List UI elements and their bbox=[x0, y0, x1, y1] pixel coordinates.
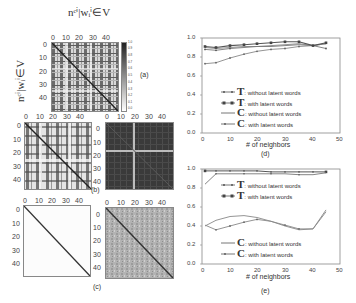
y-tick: 20 bbox=[93, 237, 101, 244]
heatmap-b-right bbox=[105, 122, 174, 190]
colorbar-tick: 0.2 bbox=[128, 94, 132, 97]
heatmap-c-right bbox=[105, 207, 174, 279]
y-tick: 0 bbox=[16, 206, 20, 213]
y-tick: 0 bbox=[96, 211, 100, 218]
colorbar-tick: 0.6 bbox=[128, 67, 132, 70]
chart-e-xlabel: # of neighbors bbox=[246, 273, 290, 280]
y-tick: 40 bbox=[39, 94, 47, 101]
x-tick: 30 bbox=[145, 199, 153, 206]
y-tick: 0.2 bbox=[187, 241, 195, 247]
colorbar-tick: 0.3 bbox=[128, 88, 132, 91]
legend-entry: C: with latent words bbox=[237, 247, 293, 259]
x-tick: 30 bbox=[145, 113, 153, 120]
y-tick: 0.0 bbox=[187, 129, 195, 135]
legend-entry: T: with latent words bbox=[237, 189, 292, 201]
x-tick: 40 bbox=[76, 113, 84, 120]
x-tick: 0 bbox=[23, 197, 27, 204]
y-tick: 30 bbox=[93, 165, 101, 172]
panel-a-ylabel: nᶜⁱ|wᵢⁱ∈V bbox=[14, 60, 27, 102]
panel-c-label: (c) bbox=[93, 283, 101, 290]
heatmap-c-left bbox=[23, 205, 91, 277]
y-tick: 10 bbox=[93, 224, 101, 231]
x-tick: 40 bbox=[309, 136, 316, 142]
panel-e-label: (e) bbox=[261, 287, 270, 294]
heatmap-b-left bbox=[24, 122, 92, 190]
y-tick: 40 bbox=[93, 264, 101, 271]
x-tick: 0 bbox=[105, 199, 109, 206]
x-tick: 0 bbox=[201, 267, 204, 273]
colorbar-tick: 0.0 bbox=[128, 107, 132, 110]
y-tick: 10 bbox=[39, 54, 47, 61]
x-tick: 0 bbox=[201, 136, 204, 142]
colorbar-tick: 0.4 bbox=[128, 81, 132, 84]
colorbar-tick: 1.0 bbox=[128, 41, 132, 44]
colorbar-tick: 0.9 bbox=[128, 47, 132, 50]
y-tick: 0.8 bbox=[187, 184, 195, 190]
x-tick: 10 bbox=[117, 199, 125, 206]
y-tick: 1.0 bbox=[187, 34, 195, 40]
x-tick: 30 bbox=[89, 34, 97, 41]
x-tick: 10 bbox=[62, 34, 70, 41]
chart-d-xlabel: # of neighbors bbox=[246, 141, 290, 148]
colorbar-tick: 0.1 bbox=[128, 101, 132, 104]
y-tick: 0.6 bbox=[187, 72, 195, 78]
x-tick: 40 bbox=[309, 267, 316, 273]
x-tick: 50 bbox=[336, 267, 343, 273]
y-tick: 0.6 bbox=[187, 203, 195, 209]
y-tick: 20 bbox=[13, 149, 21, 156]
x-tick: 10 bbox=[227, 267, 234, 273]
y-tick: 1.0 bbox=[187, 165, 195, 171]
panel-b-label: (b) bbox=[91, 186, 100, 193]
x-tick: 30 bbox=[63, 113, 71, 120]
y-tick: 20 bbox=[12, 233, 20, 240]
y-tick: 0.2 bbox=[187, 110, 195, 116]
x-tick: 10 bbox=[36, 113, 44, 120]
y-tick: 0 bbox=[43, 41, 47, 48]
panel-d-label: (d) bbox=[261, 150, 270, 157]
y-tick: 0 bbox=[96, 125, 100, 132]
x-tick: 20 bbox=[48, 197, 56, 204]
panel-a-title: nᶜⁱ|wᵢⁱ∈V bbox=[68, 6, 110, 19]
y-tick: 20 bbox=[93, 152, 101, 159]
y-tick: 10 bbox=[12, 220, 20, 227]
y-tick: 0.8 bbox=[187, 53, 195, 59]
x-tick: 30 bbox=[62, 197, 70, 204]
heatmap-a bbox=[51, 42, 119, 112]
y-tick: 40 bbox=[12, 260, 20, 267]
legend-entry: C: with latent words bbox=[237, 117, 293, 129]
x-tick: 10 bbox=[35, 197, 43, 204]
y-tick: 30 bbox=[13, 163, 21, 170]
chart-e: 1.0 0.8 0.6 0.4 0.2 0.0 0 10 20 30 40 50… bbox=[185, 163, 356, 283]
y-tick: 10 bbox=[93, 139, 101, 146]
x-tick: 20 bbox=[75, 34, 83, 41]
y-tick: 10 bbox=[13, 136, 21, 143]
y-tick: 0 bbox=[17, 122, 21, 129]
y-tick: 0.4 bbox=[187, 91, 195, 97]
y-tick: 30 bbox=[12, 247, 20, 254]
x-tick: 0 bbox=[51, 34, 55, 41]
y-tick: 20 bbox=[39, 68, 47, 75]
x-tick: 0 bbox=[24, 113, 28, 120]
colorbar-tick: 0.7 bbox=[128, 61, 132, 64]
x-tick: 40 bbox=[102, 34, 110, 41]
y-tick: 30 bbox=[39, 81, 47, 88]
x-tick: 20 bbox=[131, 199, 139, 206]
y-tick: 0.0 bbox=[187, 260, 195, 266]
y-tick: 0.4 bbox=[187, 222, 195, 228]
x-tick: 10 bbox=[227, 136, 234, 142]
x-tick: 50 bbox=[336, 136, 343, 142]
x-tick: 40 bbox=[75, 197, 83, 204]
x-tick: 0 bbox=[105, 113, 109, 120]
panel-a-label: (a) bbox=[140, 71, 149, 78]
y-tick: 40 bbox=[13, 176, 21, 183]
x-tick: 20 bbox=[49, 113, 57, 120]
colorbar-tick: 0.5 bbox=[128, 74, 132, 77]
x-tick: 20 bbox=[131, 113, 139, 120]
x-tick: 40 bbox=[158, 113, 166, 120]
chart-d: 1.0 0.8 0.6 0.4 0.2 0.0 0 10 20 30 40 50… bbox=[185, 30, 356, 150]
colorbar-tick: 0.8 bbox=[128, 54, 132, 57]
x-tick: 10 bbox=[117, 113, 125, 120]
colorbar-a bbox=[121, 42, 127, 112]
y-tick: 40 bbox=[93, 178, 101, 185]
x-tick: 40 bbox=[158, 199, 166, 206]
